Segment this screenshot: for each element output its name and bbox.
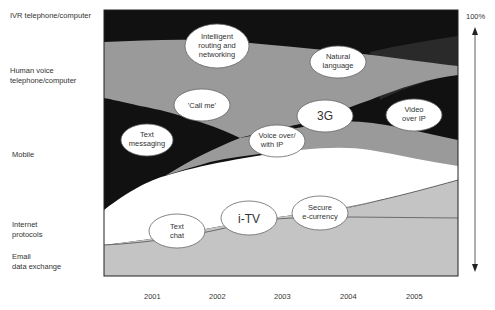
year-2003: 2003	[274, 292, 291, 301]
svg-text:'Call me': 'Call me'	[188, 101, 217, 110]
stacked-area-chart: Intelligentrouting andnetworking Natural…	[0, 0, 495, 310]
bubble-routing: Intelligentrouting andnetworking	[185, 24, 249, 68]
year-2001: 2001	[144, 292, 161, 301]
bubble-itv: i-TV	[221, 201, 277, 235]
bubble-voice-over-ip: Voice over/with IP	[249, 125, 305, 157]
bubble-text-chat: Textchat	[149, 214, 205, 248]
svg-text:3G: 3G	[317, 109, 333, 123]
bubble-text-messaging: Textmessaging	[121, 124, 173, 156]
bubble-video-over-ip: Videoover IP	[386, 99, 442, 131]
bubble-3g: 3G	[297, 100, 353, 132]
svg-text:Videoover IP: Videoover IP	[402, 105, 426, 123]
bubble-secure-ecurrency: Securee-currency	[292, 196, 348, 230]
svg-text:i-TV: i-TV	[238, 212, 260, 226]
bubble-call-me: 'Call me'	[174, 89, 230, 121]
bubble-natural-language: Naturallanguage	[310, 46, 366, 78]
svg-text:Textchat: Textchat	[170, 222, 185, 240]
year-2002: 2002	[209, 292, 226, 301]
svg-text:Intelligentrouting andnetworki: Intelligentrouting andnetworking	[198, 32, 236, 59]
year-2005: 2005	[406, 292, 423, 301]
percent-axis-arrow	[472, 27, 478, 272]
svg-text:Naturallanguage: Naturallanguage	[323, 52, 354, 70]
axis-100-percent-label: 100%	[466, 12, 485, 21]
year-2004: 2004	[340, 292, 357, 301]
